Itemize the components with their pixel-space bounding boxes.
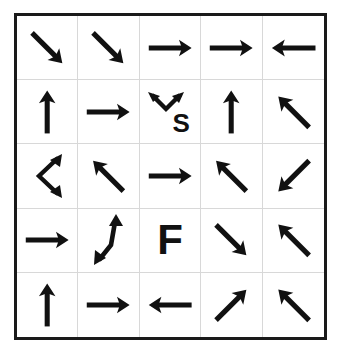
grid-cell-r1c3 (140, 16, 201, 80)
arrow-grid: SF (14, 13, 327, 340)
grid-cell-r3c1 (17, 144, 78, 208)
arrow-right-icon (140, 16, 200, 79)
grid-cell-r3c5 (263, 144, 324, 208)
arrow-up-left-icon (78, 144, 138, 207)
grid-cell-r3c4 (201, 144, 262, 208)
grid-cell-r2c3: S (140, 80, 201, 144)
arrow-up-left-icon (263, 209, 324, 272)
grid-cell-r1c1 (17, 16, 78, 80)
grid-cell-r1c5 (263, 16, 324, 80)
arrow-up-right-icon (201, 273, 261, 337)
arrow-up-left-icon (263, 273, 324, 337)
arrow-up-left-icon (201, 144, 261, 207)
grid-cell-r5c4 (201, 273, 262, 337)
arrow-right-icon (78, 80, 138, 143)
arrow-left-icon (263, 16, 324, 79)
arrow-right-icon (78, 273, 138, 337)
arrow-up-icon (17, 80, 77, 143)
grid-cell-r4c4 (201, 209, 262, 273)
double-arrow-bent-icon (78, 209, 138, 272)
letter-s-marker: S (172, 110, 189, 136)
grid-cell-r4c5 (263, 209, 324, 273)
grid-cell-r5c5 (263, 273, 324, 337)
grid-cell-r4c2 (78, 209, 139, 273)
grid-cell-r3c2 (78, 144, 139, 208)
letter-f-marker: F (157, 219, 183, 261)
grid-cell-r4c1 (17, 209, 78, 273)
double-arrow-chevron-icon (17, 144, 77, 207)
arrow-up-icon (17, 273, 77, 337)
grid-cell-r2c2 (78, 80, 139, 144)
arrow-down-right-icon (17, 16, 77, 79)
grid-cell-r5c3 (140, 273, 201, 337)
grid-cell-r3c3 (140, 144, 201, 208)
grid-cell-r4c3: F (140, 209, 201, 273)
grid-cell-r1c4 (201, 16, 262, 80)
grid-cell-r5c2 (78, 273, 139, 337)
arrow-up-left-icon (263, 80, 324, 143)
arrow-right-icon (17, 209, 77, 272)
arrow-down-right-icon (78, 16, 138, 79)
arrow-left-icon (140, 273, 200, 337)
grid-cell-r1c2 (78, 16, 139, 80)
grid-cell-r5c1 (17, 273, 78, 337)
arrow-down-right-icon (201, 209, 261, 272)
arrow-grid-figure: SF (0, 0, 341, 355)
arrow-down-left-icon (263, 144, 324, 207)
grid-cell-r2c5 (263, 80, 324, 144)
arrow-up-icon (201, 80, 261, 143)
arrow-right-icon (140, 144, 200, 207)
grid-cell-r2c1 (17, 80, 78, 144)
arrow-right-icon (201, 16, 261, 79)
grid-cell-r2c4 (201, 80, 262, 144)
